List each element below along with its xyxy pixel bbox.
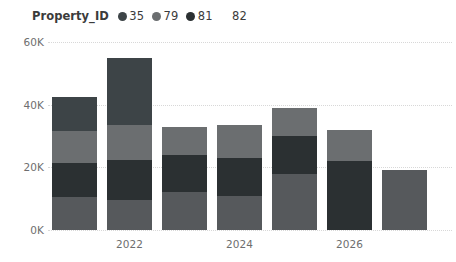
chart-container: Property_ID 35 79 81 82 0K20K40K60K 2022… [0,0,456,262]
bar-segment[interactable] [327,161,372,230]
bar-segment[interactable] [272,174,317,230]
bar-segment[interactable] [107,200,152,230]
bar-segment[interactable] [217,196,262,230]
x-tick-label-2022: 2022 [116,238,143,250]
bar-segment[interactable] [107,125,152,159]
bar-segment[interactable] [162,192,207,230]
x-tick-label-2026: 2026 [336,238,363,250]
bar-group[interactable] [217,125,262,230]
bar-group[interactable] [272,108,317,230]
bar-segment[interactable] [272,108,317,136]
bar-group[interactable] [382,170,427,230]
bar-segment[interactable] [52,131,97,162]
bar-group[interactable] [107,58,152,230]
bar-segment[interactable] [52,197,97,230]
bar-segment[interactable] [272,136,317,174]
plot-area: 0K20K40K60K 202220242026 [0,0,456,262]
bar-segment[interactable] [52,163,97,197]
x-tick-label-2024: 2024 [226,238,253,250]
bar-segment[interactable] [107,160,152,201]
bar-segment[interactable] [217,158,262,196]
bar-segment[interactable] [107,58,152,125]
bars-layer [0,0,456,262]
bar-segment[interactable] [327,130,372,161]
bar-segment[interactable] [162,127,207,155]
bar-segment[interactable] [217,125,262,158]
bar-segment[interactable] [382,170,427,230]
bar-group[interactable] [162,127,207,230]
bar-segment[interactable] [162,155,207,193]
bar-group[interactable] [52,97,97,230]
bar-segment[interactable] [52,97,97,131]
bar-group[interactable] [327,130,372,230]
